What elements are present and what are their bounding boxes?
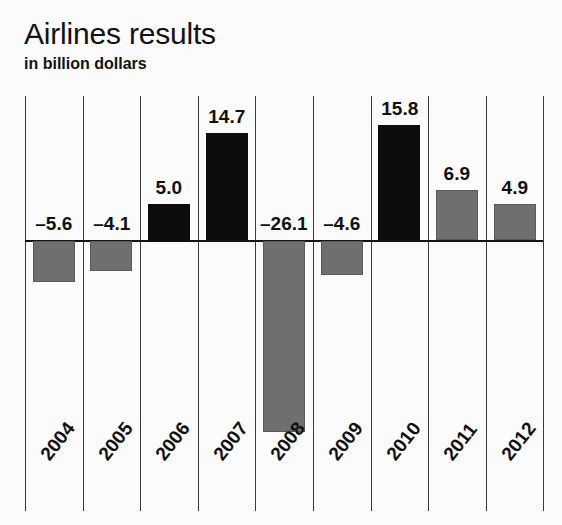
chart-figure: Airlines results in billion dollars –5.6… xyxy=(0,0,562,525)
gridline xyxy=(255,96,256,511)
gridline xyxy=(428,96,429,511)
bar-2010[interactable] xyxy=(378,125,420,240)
bar-2007[interactable] xyxy=(206,133,248,240)
bar-2012[interactable] xyxy=(494,204,536,240)
x-label-2006[interactable]: 2006 xyxy=(152,419,193,464)
gridline xyxy=(313,96,314,511)
x-label-2004[interactable]: 2004 xyxy=(37,419,78,464)
gridline xyxy=(486,96,487,511)
x-label-2007[interactable]: 2007 xyxy=(210,419,251,464)
value-label-2005: –4.1 xyxy=(75,214,149,233)
x-label-2009[interactable]: 2009 xyxy=(325,419,366,464)
bar-2009[interactable] xyxy=(321,241,363,275)
x-label-2011[interactable]: 2011 xyxy=(440,420,480,464)
gridline xyxy=(198,96,199,511)
bar-2011[interactable] xyxy=(436,190,478,240)
gridline xyxy=(83,96,84,511)
bar-2005[interactable] xyxy=(90,241,132,271)
gridline xyxy=(140,96,141,511)
gridline xyxy=(371,96,372,511)
value-label-2012: 4.9 xyxy=(478,178,552,197)
bar-2004[interactable] xyxy=(33,241,75,282)
value-label-2006: 5.0 xyxy=(132,178,206,197)
value-label-2010: 15.8 xyxy=(363,99,437,118)
bar-2008[interactable] xyxy=(263,241,305,432)
plot-area: –5.6–4.15.014.7–26.1–4.615.86.94.9 20042… xyxy=(0,0,562,525)
gridline xyxy=(543,96,544,511)
x-label-2005[interactable]: 2005 xyxy=(95,419,136,464)
value-label-2009: –4.6 xyxy=(305,214,379,233)
value-label-2007: 14.7 xyxy=(190,107,264,126)
x-label-2010[interactable]: 2010 xyxy=(383,419,424,464)
gridline xyxy=(25,96,26,511)
bar-2006[interactable] xyxy=(148,204,190,241)
x-label-2012[interactable]: 2012 xyxy=(498,419,539,464)
